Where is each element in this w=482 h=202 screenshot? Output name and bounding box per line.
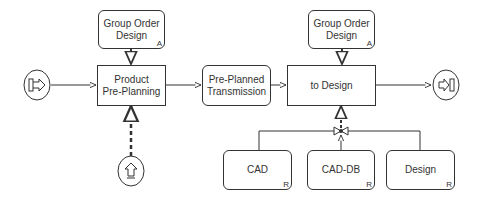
node-label: Product Pre-Planning — [103, 74, 161, 98]
node-label: Group Order Design — [103, 18, 159, 42]
pre-planned-transmission[interactable]: Pre-Planned Transmission — [202, 65, 271, 106]
resource-design[interactable]: Design R — [386, 150, 455, 190]
start-event-icon[interactable] — [24, 70, 50, 100]
resource-cad-db[interactable]: CAD-DB R — [307, 150, 375, 190]
node-tag: A — [367, 39, 372, 48]
resource-cad[interactable]: CAD R — [223, 150, 292, 190]
node-label: Pre-Planned Transmission — [207, 74, 266, 98]
node-tag: A — [157, 39, 162, 48]
node-label: to Design — [310, 80, 352, 92]
node-tag: R — [366, 180, 372, 189]
node-label: Group Order Design — [313, 18, 369, 42]
group-order-design-left[interactable]: Group Order Design A — [98, 10, 165, 49]
node-label: CAD — [247, 164, 268, 176]
end-event-icon[interactable] — [433, 70, 459, 100]
node-label: CAD-DB — [322, 164, 360, 176]
group-order-design-right[interactable]: Group Order Design A — [308, 10, 375, 49]
upload-arrow-icon[interactable] — [118, 156, 144, 186]
node-label: Design — [405, 164, 436, 176]
node-tag: R — [283, 180, 289, 189]
node-tag: R — [446, 180, 452, 189]
to-design[interactable]: to Design — [287, 65, 376, 106]
product-pre-planning[interactable]: Product Pre-Planning — [97, 65, 166, 106]
junction-icon — [334, 127, 348, 135]
